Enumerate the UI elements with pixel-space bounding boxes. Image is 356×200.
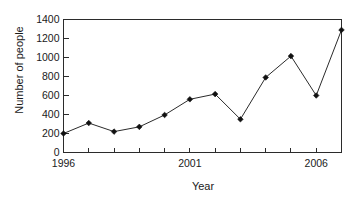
data-point-marker (137, 124, 143, 130)
line-chart-figure: 0200400600800100012001400 199620012006 N… (0, 0, 356, 200)
x-axis-tick-labels: 199620012006 (52, 157, 328, 169)
x-axis-ticks (64, 148, 342, 153)
x-tick-label: 2001 (178, 157, 202, 169)
y-tick-label: 800 (42, 70, 60, 82)
y-axis-title: Number of people (8, 0, 30, 150)
x-tick-label: 1996 (52, 157, 76, 169)
data-point-marker (187, 97, 193, 103)
data-point-marker (313, 93, 319, 99)
x-axis-title: Year (63, 180, 343, 192)
data-point-marker (61, 131, 67, 137)
axis-frame (64, 20, 342, 153)
y-tick-label: 1000 (36, 51, 60, 63)
y-axis-tick-labels: 0200400600800100012001400 (36, 13, 60, 158)
y-tick-label: 1200 (36, 32, 60, 44)
y-tick-label: 400 (42, 108, 60, 120)
y-tick-label: 200 (42, 127, 60, 139)
data-series-line (64, 30, 342, 134)
y-tick-label: 600 (42, 89, 60, 101)
data-point-marker (86, 120, 92, 126)
plot-area: 0200400600800100012001400 199620012006 (0, 0, 356, 200)
data-point-marker (162, 112, 168, 118)
data-point-marker (339, 27, 345, 33)
data-point-markers (61, 27, 345, 136)
y-tick-label: 1400 (36, 13, 60, 25)
data-point-marker (111, 129, 117, 135)
x-tick-label: 2006 (305, 157, 329, 169)
